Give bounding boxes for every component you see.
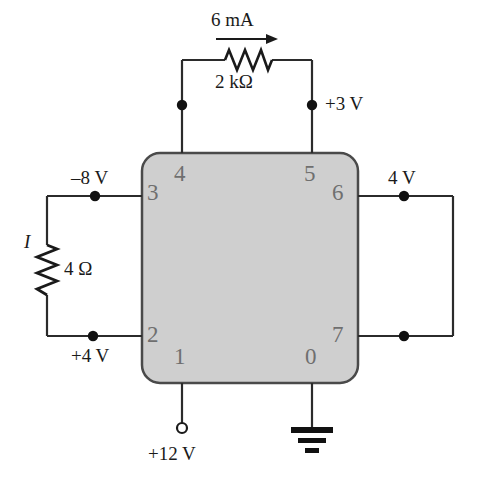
resistor-2kohm-symbol: [225, 50, 272, 70]
voltage-label-pin2: +4 V: [71, 346, 109, 365]
ground-icon-bar-1: [291, 427, 333, 433]
pin-number-4: 4: [174, 162, 186, 185]
supply-terminal-circle-icon: [177, 423, 187, 433]
pin-number-6: 6: [332, 181, 344, 204]
junction-dot-pin3: [90, 191, 100, 201]
voltage-label-pin1-supply: +12 V: [148, 444, 196, 463]
junction-dot-pin4: [177, 100, 187, 110]
junction-dot-pin2: [88, 331, 98, 341]
ground-icon-bar-2: [298, 438, 326, 443]
resistor-4ohm-symbol: [37, 245, 57, 295]
resistor-value-4ohm: 4 Ω: [64, 259, 92, 278]
pin-number-5: 5: [304, 162, 316, 185]
circuit-diagram-figure: 6 mA 2 kΩ I 4 Ω –8 V +4 V +3 V 4 V +12 V…: [0, 0, 478, 484]
voltage-label-pin6: 4 V: [388, 168, 416, 187]
ground-icon-bar-3: [305, 448, 319, 453]
current-label-6ma: 6 mA: [211, 10, 254, 29]
pin-number-1: 1: [174, 345, 186, 368]
pin-number-7: 7: [332, 323, 344, 346]
pin-number-2: 2: [147, 323, 159, 346]
current-arrow-head-6ma: [266, 34, 278, 44]
voltage-label-pin3: –8 V: [71, 168, 108, 187]
junction-dot-pin5: [307, 100, 317, 110]
junction-dot-pin6: [399, 191, 409, 201]
junction-dot-pin7: [399, 331, 409, 341]
resistor-value-2kohm: 2 kΩ: [215, 72, 253, 91]
pin-number-0: 0: [305, 345, 317, 368]
voltage-label-pin5: +3 V: [325, 94, 363, 113]
current-label-i: I: [24, 232, 30, 251]
pin-number-3: 3: [147, 181, 159, 204]
